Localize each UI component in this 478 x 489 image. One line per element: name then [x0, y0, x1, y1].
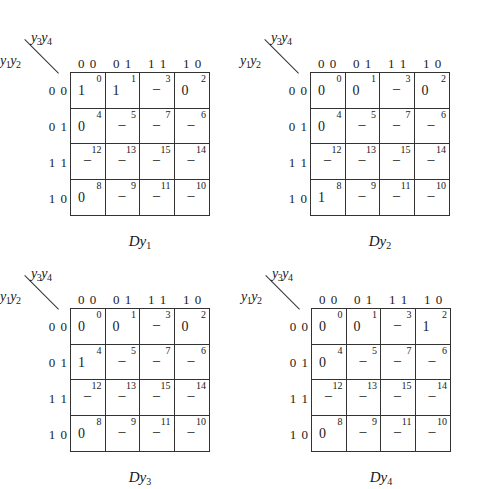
kmap-cell-2: 20: [175, 73, 210, 109]
kmap-cell-4: 41: [71, 345, 106, 381]
kmap-cell-6: 6–: [175, 109, 210, 145]
kmap-cell-3: 3–: [140, 309, 175, 345]
minterm-index: 12: [92, 380, 102, 391]
dont-care-value: –: [153, 353, 160, 369]
minterm-index: 6: [201, 109, 206, 120]
minterm-index: 12: [332, 144, 342, 155]
map-caption: Dy4: [311, 469, 451, 487]
minterm-index: 10: [196, 180, 206, 191]
kmap-cell-6: 6–: [416, 345, 451, 381]
column-header: 1 0: [175, 56, 210, 72]
row-header: 1 1: [32, 391, 68, 407]
kmap-cell-5: 5–: [106, 109, 141, 145]
kmap-cell-15: 15–: [140, 144, 175, 180]
dont-care-value: –: [359, 188, 366, 204]
minterm-index: 1: [131, 309, 136, 320]
minterm-index: 6: [201, 345, 206, 356]
dont-care-value: –: [153, 188, 160, 204]
minterm-index: 11: [401, 180, 411, 191]
kmap-grid: 00103–20415–7–6–12–13–15–14–809–11–10–: [70, 308, 210, 452]
dont-care-value: –: [153, 317, 160, 333]
dont-care-value: –: [119, 188, 126, 204]
cell-value: 0: [113, 319, 120, 335]
row-header: 0 1: [272, 119, 308, 135]
kmap-cell-8: 80: [71, 416, 106, 452]
minterm-index: 13: [367, 380, 377, 391]
minterm-index: 0: [97, 73, 102, 84]
minterm-index: 5: [131, 109, 136, 120]
column-header: 1 1: [381, 292, 416, 308]
kmap-cell-3: 3–: [140, 73, 175, 109]
kmap-cell-2: 20: [415, 73, 450, 109]
row-header: 1 1: [272, 155, 308, 171]
dont-care-value: –: [119, 117, 126, 133]
minterm-index: 5: [131, 345, 136, 356]
minterm-index: 10: [196, 416, 206, 427]
dont-care-value: –: [429, 353, 436, 369]
kmap-cell-11: 11–: [140, 180, 175, 216]
minterm-index: 3: [166, 309, 171, 320]
kmap-grid: 00103–20405–7–6–12–13–15–14–819–11–10–: [310, 72, 450, 216]
column-header: 1 1: [140, 292, 175, 308]
kmap-cell-0: 00: [312, 309, 347, 345]
minterm-index: 11: [161, 416, 171, 427]
cell-value: 0: [78, 426, 85, 442]
cell-value: 0: [318, 119, 325, 135]
minterm-index: 2: [201, 309, 206, 320]
dont-care-value: –: [324, 152, 331, 168]
dont-care-value: –: [394, 424, 401, 440]
dont-care-value: –: [153, 81, 160, 97]
minterm-index: 0: [337, 73, 342, 84]
minterm-index: 5: [371, 109, 376, 120]
kmap-cell-2: 20: [175, 309, 210, 345]
dont-care-value: –: [393, 81, 400, 97]
minterm-index: 0: [97, 309, 102, 320]
dont-care-value: –: [84, 152, 91, 168]
minterm-index: 13: [126, 380, 136, 391]
kmap-cell-13: 13–: [347, 380, 382, 416]
kmap-cell-15: 15–: [381, 380, 416, 416]
kmap-cell-10: 10–: [416, 416, 451, 452]
dont-care-value: –: [393, 188, 400, 204]
minterm-index: 14: [196, 380, 206, 391]
map-caption: Dy3: [70, 469, 210, 487]
cell-value: 0: [319, 426, 326, 442]
dont-care-value: –: [119, 388, 126, 404]
dont-care-value: –: [359, 152, 366, 168]
kmap-cell-4: 40: [312, 345, 347, 381]
dont-care-value: –: [119, 353, 126, 369]
kmap-grid: 01113–20405–7–6–12–13–15–14–809–11–10–: [70, 72, 210, 216]
minterm-index: 4: [97, 109, 102, 120]
row-header: 1 0: [273, 427, 309, 443]
minterm-index: 1: [372, 309, 377, 320]
row-header: 0 0: [32, 83, 68, 99]
kmap-cell-4: 40: [71, 109, 106, 145]
kmap-cell-1: 10: [347, 309, 382, 345]
cell-value: 0: [319, 355, 326, 371]
kmap-cell-15: 15–: [380, 144, 415, 180]
kmap-cell-0: 00: [311, 73, 346, 109]
dont-care-value: –: [359, 117, 366, 133]
kmap-cell-14: 14–: [415, 144, 450, 180]
kmap-cell-1: 10: [106, 309, 141, 345]
dont-care-value: –: [188, 424, 195, 440]
cell-value: 1: [113, 83, 120, 99]
minterm-index: 3: [406, 73, 411, 84]
kmap-cell-8: 80: [312, 416, 347, 452]
minterm-index: 14: [196, 144, 206, 155]
kmap-cell-2: 21: [416, 309, 451, 345]
row-header: 1 0: [32, 191, 68, 207]
dont-care-value: –: [153, 424, 160, 440]
dont-care-value: –: [394, 317, 401, 333]
row-header: 0 1: [32, 119, 68, 135]
column-header: 0 1: [346, 292, 381, 308]
kmap-cell-13: 13–: [346, 144, 381, 180]
kmap-cell-0: 01: [71, 73, 106, 109]
minterm-index: 4: [337, 109, 342, 120]
cell-value: 1: [318, 190, 325, 206]
row-variables-label: y1y2: [0, 289, 20, 306]
kmap-cell-5: 5–: [106, 345, 141, 381]
cell-value: 0: [354, 319, 361, 335]
kmap-cell-3: 3–: [380, 73, 415, 109]
karnaugh-map-dy2: y3y4 y1y2 0 0 0 1 1 1 1 0 0 0 0 1 1 1 1 …: [240, 30, 470, 260]
